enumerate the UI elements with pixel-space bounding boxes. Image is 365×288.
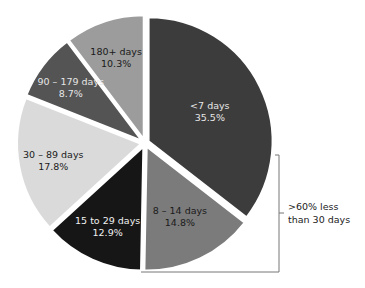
- annotation-line-2: than 30 days: [288, 214, 350, 225]
- slice-category-label: 90 – 179 days: [38, 76, 105, 87]
- slice-value-label: 35.5%: [195, 112, 225, 123]
- slice-category-label: <7 days: [190, 100, 229, 111]
- slice-value-label: 17.8%: [38, 161, 68, 172]
- slice-value-label: 8.7%: [59, 88, 83, 99]
- pie-chart: <7 days35.5%8 – 14 days14.8%15 to 29 day…: [0, 0, 365, 288]
- slice-category-label: 8 – 14 days: [153, 205, 207, 216]
- annotation-line-1: >60% less: [288, 201, 339, 212]
- slice-value-label: 14.8%: [165, 217, 195, 228]
- slice-category-label: 180+ days: [90, 46, 142, 57]
- slice-value-label: 10.3%: [101, 58, 131, 69]
- slice-category-label: 30 – 89 days: [23, 149, 83, 160]
- slice-value-label: 12.9%: [93, 227, 123, 238]
- pie-slices: [17, 15, 273, 270]
- slice-category-label: 15 to 29 days: [75, 215, 140, 226]
